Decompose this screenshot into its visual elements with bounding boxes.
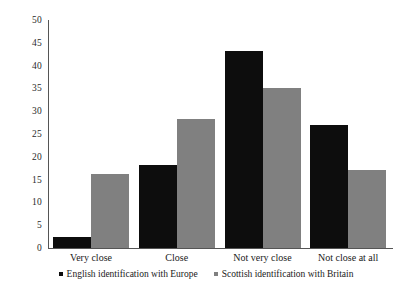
chart-legend: English identification with EuropeScotti… [0, 268, 412, 280]
bar-group [310, 20, 386, 248]
legend-item: Scottish identification with Britain [214, 268, 354, 280]
y-axis-tick-label: 15 [0, 175, 42, 185]
legend-swatch-icon [214, 272, 218, 276]
y-axis-ticks: 50454035302520151050 [0, 0, 44, 284]
x-axis-label: Not close at all [293, 251, 403, 264]
bar [139, 165, 177, 248]
bar-group [139, 20, 215, 248]
bar-groups [49, 20, 392, 248]
y-axis-tick-label: 35 [0, 83, 42, 93]
bar [225, 51, 263, 248]
bar [310, 125, 348, 248]
y-axis-tick-label: 25 [0, 129, 42, 139]
x-axis-labels: Very closeCloseNot very closeNot close a… [49, 251, 392, 267]
y-axis-tick-label: 50 [0, 15, 42, 25]
bar [348, 170, 386, 248]
y-axis-tick-label: 20 [0, 152, 42, 162]
legend-label: English identification with Europe [67, 268, 198, 280]
y-axis-tick-label: 40 [0, 61, 42, 71]
bar [263, 88, 301, 249]
bar-group [225, 20, 301, 248]
y-axis-tick-label: 10 [0, 197, 42, 207]
bar [177, 119, 215, 248]
legend-label: Scottish identification with Britain [222, 268, 354, 280]
y-axis-tick-label: 5 [0, 220, 42, 230]
bar [91, 174, 129, 248]
bar-chart: 50454035302520151050 Very closeCloseNot … [0, 0, 412, 284]
y-axis-tick-label: 30 [0, 106, 42, 116]
legend-swatch-icon [59, 272, 63, 276]
bar-group [53, 20, 129, 248]
x-axis-line [48, 248, 393, 249]
y-axis-tick-label: 45 [0, 38, 42, 48]
bar [53, 237, 91, 248]
legend-item: English identification with Europe [59, 268, 198, 280]
